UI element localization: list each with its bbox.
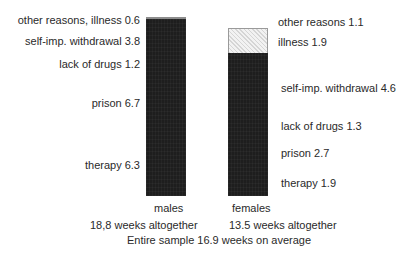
females-bar: [228, 28, 268, 196]
category-label-males: males: [154, 202, 183, 215]
males-label-other-illness: other reasons, illness 0.6: [18, 14, 140, 27]
females-total: 13.5 weeks altogether: [229, 219, 337, 232]
females-label-withdrawal: self-imp. withdrawal 4.6: [281, 82, 396, 95]
category-label-females: females: [232, 202, 271, 215]
males-label-prison: prison 6.7: [92, 97, 140, 110]
females-segment-other-illness: [228, 28, 268, 54]
males-label-therapy: therapy 6.3: [85, 159, 140, 172]
females-label-prison: prison 2.7: [281, 147, 329, 160]
entire-sample-average: Entire sample 16.9 weeks on average: [127, 234, 311, 247]
females-label-other: other reasons 1.1: [278, 16, 364, 29]
males-total: 18,8 weeks altogether: [90, 219, 198, 232]
females-label-illness: illness 1.9: [278, 36, 327, 49]
males-segment-dark-stack: [146, 19, 186, 196]
males-bar: [146, 17, 186, 196]
females-label-therapy: therapy 1.9: [281, 177, 336, 190]
females-segment-dark-stack: [228, 53, 268, 196]
males-label-lack-of-drugs: lack of drugs 1.2: [59, 58, 140, 71]
males-label-withdrawal: self-imp. withdrawal 3.8: [25, 35, 140, 48]
females-label-lack-of-drugs: lack of drugs 1.3: [281, 120, 362, 133]
